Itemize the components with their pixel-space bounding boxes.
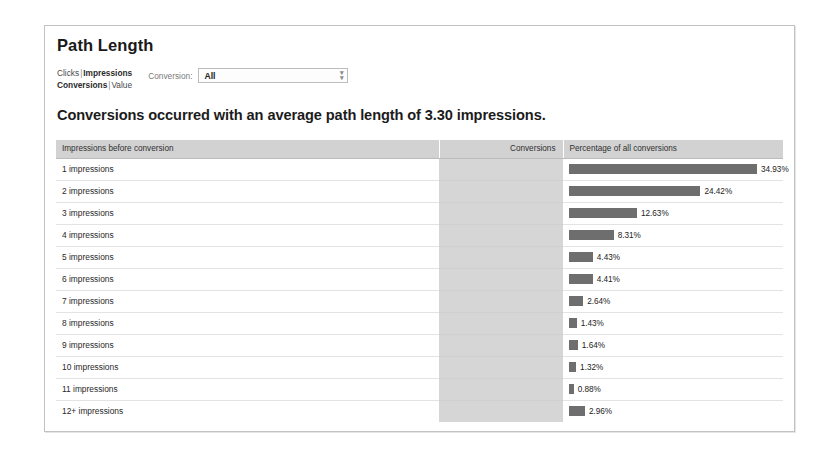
cell-conversions-value: [439, 202, 563, 224]
cell-impressions-label: 7 impressions: [56, 290, 439, 312]
cell-impressions-label: 9 impressions: [56, 334, 439, 356]
cell-percentage-bar: 34.93%: [563, 158, 783, 180]
percentage-bar: [569, 362, 576, 372]
bar-wrapper: 12.63%: [569, 203, 777, 224]
cell-impressions-label: 12+ impressions: [56, 400, 439, 422]
table-row: 3 impressions12.63%: [56, 202, 783, 224]
table-row: 9 impressions1.64%: [56, 334, 783, 356]
cell-conversions-value: [439, 334, 563, 356]
cell-impressions-label: 1 impressions: [56, 158, 439, 180]
percentage-bar: [569, 318, 577, 328]
conversion-filter: Conversion: All ▾▾: [148, 67, 348, 83]
table-row: 1 impressions34.93%: [56, 158, 783, 180]
percentage-bar: [569, 296, 583, 306]
cell-conversions-value: [439, 290, 563, 312]
conversion-filter-label: Conversion:: [148, 71, 192, 81]
table-row: 11 impressions0.88%: [56, 378, 783, 400]
metric-line-clicks-impressions: Clicks|Impressions: [57, 68, 132, 80]
metric-link-conversions[interactable]: Conversions: [57, 80, 107, 90]
percentage-bar: [569, 274, 593, 284]
table-header-row: Impressions before conversion Conversion…: [56, 140, 783, 158]
column-header-impressions[interactable]: Impressions before conversion: [56, 140, 439, 158]
percentage-value-label: 2.64%: [587, 297, 610, 306]
table-row: 6 impressions4.41%: [56, 268, 783, 290]
conversion-select[interactable]: All ▾▾: [198, 68, 348, 83]
cell-percentage-bar: 12.63%: [563, 202, 783, 224]
percentage-bar: [569, 230, 614, 240]
headline-summary: Conversions occurred with an average pat…: [57, 107, 794, 123]
metric-links-group: Clicks|Impressions Conversions|Value: [57, 67, 132, 91]
table-row: 5 impressions4.43%: [56, 246, 783, 268]
bar-wrapper: 1.32%: [569, 357, 777, 378]
bar-wrapper: 4.41%: [569, 269, 777, 290]
table-row: 2 impressions24.42%: [56, 180, 783, 202]
cell-percentage-bar: 8.31%: [563, 224, 783, 246]
table-row: 7 impressions2.64%: [56, 290, 783, 312]
cell-conversions-value: [439, 158, 563, 180]
percentage-value-label: 12.63%: [641, 209, 669, 218]
metric-link-value[interactable]: Value: [111, 80, 132, 90]
column-header-percentage[interactable]: Percentage of all conversions: [563, 140, 783, 158]
metric-link-impressions[interactable]: Impressions: [83, 68, 132, 78]
cell-conversions-value: [439, 268, 563, 290]
cell-percentage-bar: 4.41%: [563, 268, 783, 290]
percentage-value-label: 34.93%: [761, 165, 789, 174]
cell-impressions-label: 6 impressions: [56, 268, 439, 290]
cell-conversions-value: [439, 356, 563, 378]
cell-conversions-value: [439, 180, 563, 202]
metric-line-conversions-value: Conversions|Value: [57, 80, 132, 92]
percentage-value-label: 24.42%: [704, 187, 732, 196]
percentage-value-label: 4.43%: [597, 253, 620, 262]
percentage-bar: [569, 384, 574, 394]
bar-wrapper: 8.31%: [569, 225, 777, 246]
percentage-bar: [569, 406, 585, 416]
table-row: 8 impressions1.43%: [56, 312, 783, 334]
bar-wrapper: 2.64%: [569, 291, 777, 312]
cell-percentage-bar: 1.32%: [563, 356, 783, 378]
cell-impressions-label: 4 impressions: [56, 224, 439, 246]
cell-percentage-bar: 4.43%: [563, 246, 783, 268]
cell-percentage-bar: 24.42%: [563, 180, 783, 202]
cell-conversions-value: [439, 224, 563, 246]
percentage-bar: [569, 164, 757, 174]
bar-wrapper: 24.42%: [569, 181, 777, 202]
percentage-value-label: 1.32%: [580, 363, 603, 372]
cell-percentage-bar: 2.64%: [563, 290, 783, 312]
percentage-bar: [569, 340, 578, 350]
cell-impressions-label: 10 impressions: [56, 356, 439, 378]
bar-wrapper: 1.43%: [569, 313, 777, 334]
column-header-conversions[interactable]: Conversions: [439, 140, 563, 158]
percentage-value-label: 1.64%: [582, 341, 605, 350]
cell-percentage-bar: 2.96%: [563, 400, 783, 422]
percentage-value-label: 1.43%: [581, 319, 604, 328]
table-body: 1 impressions34.93%2 impressions24.42%3 …: [56, 158, 783, 422]
table-row: 12+ impressions2.96%: [56, 400, 783, 422]
page-title: Path Length: [57, 36, 794, 55]
chevron-double-down-icon: ▾▾: [340, 71, 344, 81]
cell-percentage-bar: 0.88%: [563, 378, 783, 400]
bar-wrapper: 34.93%: [569, 159, 777, 180]
metric-link-clicks[interactable]: Clicks: [57, 68, 79, 78]
cell-conversions-value: [439, 400, 563, 422]
bar-wrapper: 1.64%: [569, 335, 777, 356]
path-length-report-panel: Path Length Clicks|Impressions Conversio…: [44, 25, 795, 432]
cell-impressions-label: 3 impressions: [56, 202, 439, 224]
table-row: 10 impressions1.32%: [56, 356, 783, 378]
bar-wrapper: 2.96%: [569, 401, 777, 423]
percentage-bar: [569, 186, 700, 196]
cell-percentage-bar: 1.64%: [563, 334, 783, 356]
percentage-value-label: 8.31%: [618, 231, 641, 240]
path-length-table: Impressions before conversion Conversion…: [56, 140, 783, 422]
cell-percentage-bar: 1.43%: [563, 312, 783, 334]
cell-impressions-label: 2 impressions: [56, 180, 439, 202]
percentage-value-label: 0.88%: [578, 385, 601, 394]
bar-wrapper: 4.43%: [569, 247, 777, 268]
bar-wrapper: 0.88%: [569, 379, 777, 400]
conversion-select-value: All: [204, 71, 215, 81]
cell-conversions-value: [439, 312, 563, 334]
cell-impressions-label: 8 impressions: [56, 312, 439, 334]
cell-impressions-label: 5 impressions: [56, 246, 439, 268]
cell-impressions-label: 11 impressions: [56, 378, 439, 400]
table-row: 4 impressions8.31%: [56, 224, 783, 246]
controls-row: Clicks|Impressions Conversions|Value Con…: [57, 67, 794, 91]
